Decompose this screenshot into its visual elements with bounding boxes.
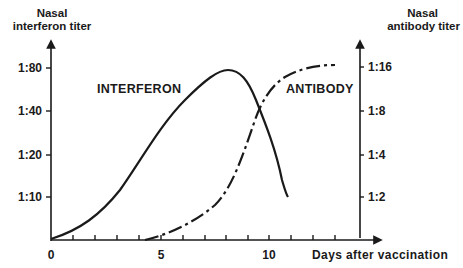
right-tick-label: 1:16 <box>368 60 392 74</box>
x-tick-label: 0 <box>41 248 61 262</box>
right-tick-label: 1:4 <box>368 148 385 162</box>
right-axis-title-line1: Nasal <box>342 7 460 20</box>
chart-canvas <box>0 0 463 268</box>
series-label-antibody: ANTIBODY <box>286 82 354 96</box>
left-tick-label: 1:80 <box>2 61 42 75</box>
left-tick-label: 1:20 <box>2 148 42 162</box>
right-axis-title: Nasal antibody titer <box>342 7 460 33</box>
x-axis-title: Days after vaccination <box>312 249 448 262</box>
left-axis-title-line2: interferon titer <box>4 20 100 33</box>
right-tick-label: 1:8 <box>368 104 385 118</box>
series-label-interferon: INTERFERON <box>97 82 181 96</box>
x-tick-label: 5 <box>151 248 171 262</box>
left-tick-label: 1:40 <box>2 104 42 118</box>
left-axis-title-line1: Nasal <box>4 7 100 20</box>
left-tick-label: 1:10 <box>2 190 42 204</box>
x-tick-label: 10 <box>259 248 279 262</box>
right-axis-title-line2: antibody titer <box>342 20 460 33</box>
left-axis-title: Nasal interferon titer <box>4 7 100 33</box>
right-tick-label: 1:2 <box>368 190 385 204</box>
